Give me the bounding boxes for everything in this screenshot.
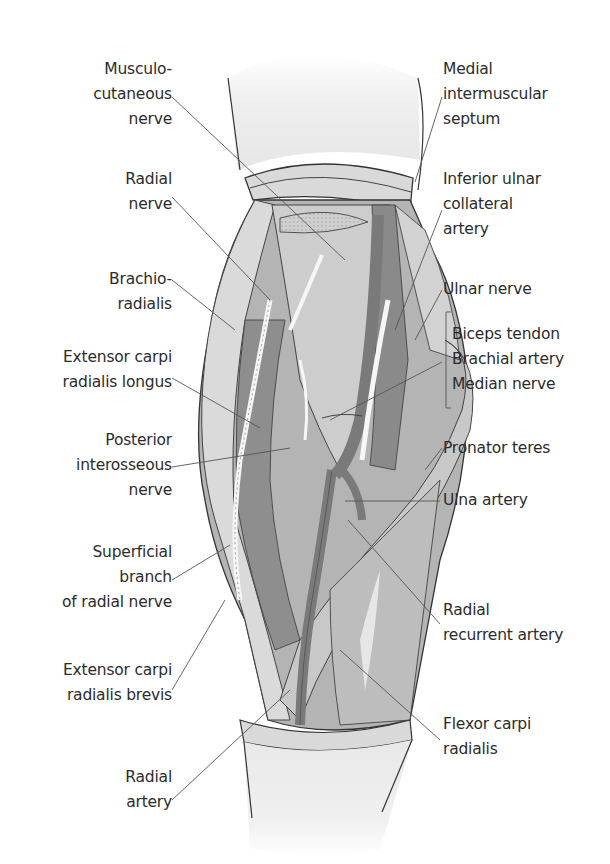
label-flexor-carpi-radialis: Flexor carpiradialis <box>443 712 531 762</box>
label-medial-intermuscular-septum: Medialintermuscularseptum <box>443 57 548 132</box>
label-biceps-brachial-median-group: Biceps tendonBrachial arteryMedian nerve <box>452 322 564 397</box>
label-ulnar-nerve: Ulnar nerve <box>443 277 532 302</box>
label-ulna-artery: Ulna artery <box>443 488 528 513</box>
label-superficial-branch-radial-nerve: Superficialbranchof radial nerve <box>62 540 172 615</box>
label-radial-recurrent-artery: Radialrecurrent artery <box>443 598 563 648</box>
label-extensor-carpi-radialis-longus: Extensor carpiradialis longus <box>63 345 172 395</box>
label-musculocutaneous-nerve: Musculo-cutaneousnerve <box>93 57 172 132</box>
label-pronator-teres: Pronator teres <box>443 436 550 461</box>
anatomy-diagram: Musculo-cutaneousnerve Radialnerve Brach… <box>0 0 610 864</box>
label-extensor-carpi-radialis-brevis: Extensor carpiradialis brevis <box>63 658 172 708</box>
lower-forearm-skin <box>244 740 412 857</box>
forearm-muscles <box>199 200 473 730</box>
label-radial-nerve: Radialnerve <box>125 167 172 217</box>
label-radial-artery: Radialartery <box>125 765 172 815</box>
label-posterior-interosseous-nerve: Posteriorinterosseousnerve <box>76 428 172 503</box>
label-inferior-ulnar-collateral-artery: Inferior ulnarcollateralartery <box>443 167 541 242</box>
label-brachioradialis: Brachio-radialis <box>109 267 172 317</box>
